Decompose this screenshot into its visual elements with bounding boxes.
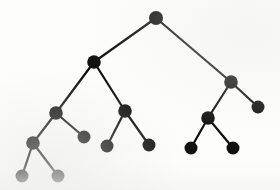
- tree-node: [16, 170, 29, 183]
- tree-node: [26, 136, 40, 150]
- tree-node: [87, 55, 101, 69]
- tree-node: [224, 75, 238, 89]
- tree-node: [118, 104, 132, 118]
- binary-tree-figure: [0, 0, 280, 190]
- tree-node: [49, 106, 63, 120]
- tree-node: [227, 142, 240, 155]
- binary-tree-canvas: [0, 0, 280, 190]
- tree-node: [143, 139, 156, 152]
- tree-node: [185, 142, 198, 155]
- tree-node: [101, 140, 114, 153]
- tree-node: [201, 111, 215, 125]
- tree-node: [252, 101, 265, 114]
- tree-node: [52, 170, 65, 183]
- tree-node: [149, 11, 163, 25]
- tree-node: [78, 131, 91, 144]
